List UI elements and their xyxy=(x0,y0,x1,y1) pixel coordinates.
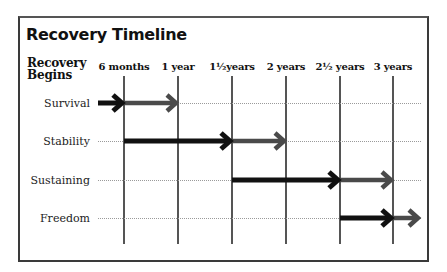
arrow-stability-primary xyxy=(124,133,230,149)
arrow-freedom-primary xyxy=(340,210,391,226)
arrow-stability-extended xyxy=(232,133,284,149)
arrow-survival-extended xyxy=(124,95,176,111)
phase-arrows xyxy=(0,0,447,272)
arrow-sustaining-primary xyxy=(232,172,338,188)
arrow-survival-primary xyxy=(98,95,122,111)
arrow-sustaining-extended xyxy=(340,172,391,188)
arrow-freedom-extended xyxy=(393,210,418,226)
